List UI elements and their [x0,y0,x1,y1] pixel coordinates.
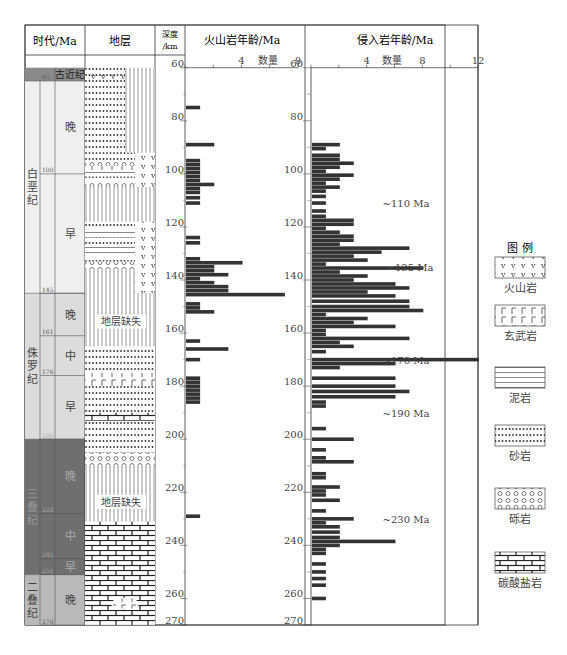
depth-tick-label: 180 [284,376,303,387]
legend-swatch-conglomerate [495,488,545,509]
intrusive-bar [312,577,326,581]
intrusive-bar [312,540,396,544]
volcanic-bar [186,257,200,261]
strata-layer [135,153,155,187]
intrusive-bar [312,544,340,548]
volcanic-bar [186,183,214,187]
volcanic-bar [186,293,285,297]
legend-swatch-basalt [495,305,545,326]
intrusive-bar [312,299,409,303]
era-label: 叠 [27,594,38,607]
volcanic-chart-title: 火山岩年龄/Ma [204,33,281,47]
intrusive-bar [312,437,354,441]
intrusive-bar [312,485,340,489]
strata-layer [85,153,135,161]
era-label: 纪 [27,514,38,527]
era-label: 三 [27,488,38,501]
legend-label: 玄武岩 [504,329,537,343]
legend: 图 例火山岩玄武岩泥岩砂岩砾岩碳酸盐岩 [495,241,545,590]
age-peak-annotation: ~135 Ma [387,262,434,273]
depth-tick-label: 80 [171,111,184,122]
stage-label: 晚 [65,594,76,607]
depth-tick-label: 240 [284,535,303,546]
volcanic-bar [186,167,200,171]
volcanic-bar [186,171,200,175]
volcanic-bar [186,277,200,281]
depth-tick-label: 270 [165,615,184,626]
era-label: 纪 [27,607,38,620]
intrusive-bar [312,395,396,399]
intrusive-bar [312,143,340,147]
volcanic-bar [186,179,200,183]
intrusive-bar [312,157,340,161]
svg-text:/km: /km [162,42,178,51]
volcanic-bar [186,187,200,191]
x-tick-label: 4 [238,55,244,66]
intrusive-bar [312,493,326,497]
volcanic-bar [186,388,200,392]
strata-layer [85,171,135,176]
intrusive-bar [312,286,409,290]
intrusive-bar [312,472,326,476]
strata-layer [85,269,135,346]
intrusive-bar [312,278,354,282]
legend-label: 砂岩 [509,449,531,463]
intrusive-bar [312,536,340,540]
intrusive-bar [312,313,326,317]
intrusive-bar [312,201,326,205]
intrusive-bar [312,209,326,213]
strata-layer [85,439,155,452]
depth-tick-label: 240 [165,535,184,546]
intrusive-bar [312,218,354,222]
intrusive-bar [312,294,396,298]
legend-label: 砾岩 [509,512,531,526]
depth-tick-label: 200 [284,429,303,440]
strata-layer [85,161,135,166]
x-tick-label: 4 [363,55,369,66]
intrusive-bar [312,548,326,552]
intrusive-bar [312,448,326,452]
intrusive-bar [312,165,340,169]
age-boundary-value: 145 [42,286,54,293]
age-boundary-value: 65 [42,73,50,80]
volcanic-bar [186,400,200,404]
age-boundary-value: 245 [42,551,54,558]
x-tick-label: 8 [419,55,425,66]
intrusive-bar [312,498,340,502]
depth-tick-label: 270 [284,615,303,626]
strata-layer [85,246,135,257]
strata-layer [85,230,135,238]
depth-tick-label: 140 [284,270,303,281]
intrusive-bar [312,337,409,341]
intrusive-bar [312,597,326,601]
depth-column-header: 深度 [162,29,178,39]
intrusive-bar [312,456,326,460]
volcanic-bar [186,339,200,343]
volcanic-bar [186,358,200,362]
intrusive-bar [312,350,326,354]
legend-title: 图 例 [507,241,533,255]
intrusive-bar [312,325,396,329]
intrusive-bar [312,305,409,309]
depth-tick-label: 160 [165,323,184,334]
intrusive-bar [312,161,354,165]
volcanic-bar [186,196,200,200]
volcanic-bar [186,384,200,388]
intrusive-bar [312,234,354,238]
depth-tick-label: 100 [284,164,303,175]
stratigraphic-age-chart: v 时代/Ma地层深度/km60608080100100120120140140… [0,0,567,655]
strata-layer [85,386,155,413]
intrusive-bar [312,317,368,321]
intrusive-bar [312,476,326,480]
intrusive-bar [312,254,354,258]
intrusive-bar [312,345,354,349]
x-tick-label: 8 [295,55,301,66]
volcanic-bar [186,143,214,147]
depth-tick-label: 220 [284,482,303,493]
age-peak-annotation: ~190 Ma [383,408,430,419]
volcanic-bar [186,241,200,245]
depth-tick-label: 100 [165,164,184,175]
stage-label: 早 [65,228,76,241]
volcanic-bar [186,289,228,293]
intrusive-bar [312,460,354,464]
